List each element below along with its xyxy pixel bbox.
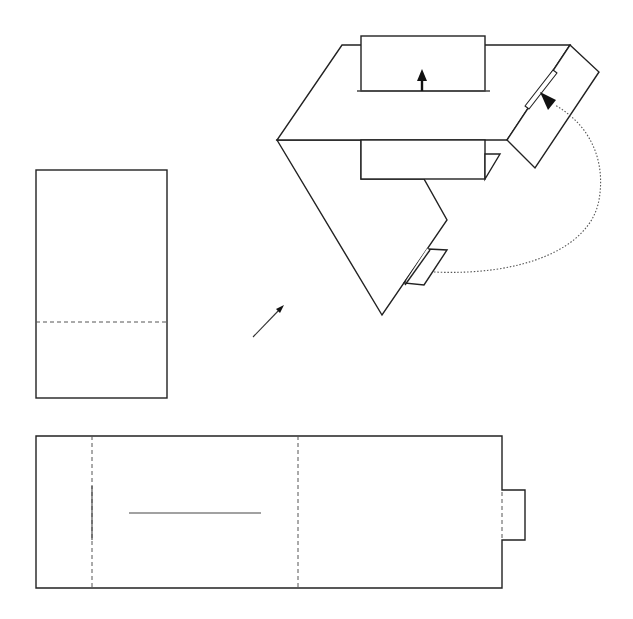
assembly-lower-box <box>361 140 485 179</box>
step-arrow-icon <box>253 305 284 337</box>
long-sheet-outline <box>36 436 525 588</box>
small-sheet-outline <box>36 170 167 398</box>
assembled-view <box>277 36 601 315</box>
long-sheet <box>36 436 525 588</box>
folding-diagram <box>0 0 633 619</box>
small-sheet <box>36 170 167 398</box>
assembly-lower-box-flap <box>485 154 500 179</box>
